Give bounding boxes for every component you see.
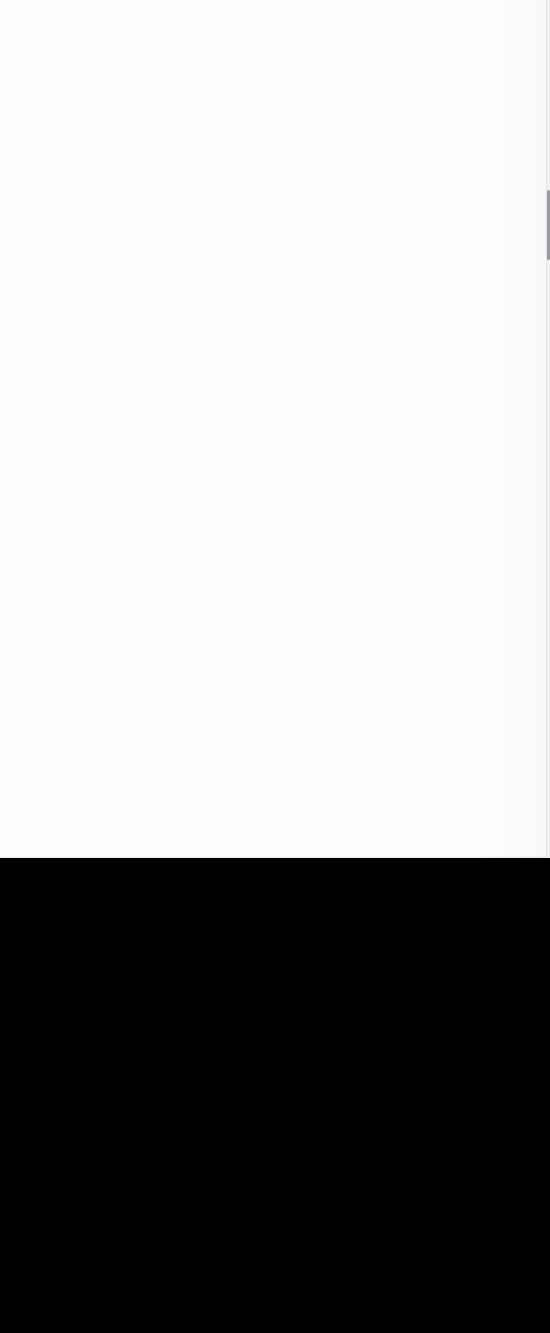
lower-black-region bbox=[0, 858, 550, 1333]
content-panel bbox=[0, 0, 550, 858]
screen-root bbox=[0, 0, 550, 1333]
vertical-scrollbar[interactable] bbox=[546, 0, 550, 858]
panel-gradient-sheen bbox=[0, 0, 550, 858]
